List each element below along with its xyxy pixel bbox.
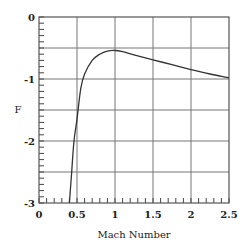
y-tick-labels: 0-1-2-3: [24, 12, 35, 209]
y-tick-label: 0: [28, 12, 35, 23]
x-tick-label: 1.5: [144, 209, 161, 220]
chart: 00.511.522.5 0-1-2-3 Mach Number F: [0, 0, 250, 249]
x-tick-label: 0.5: [68, 209, 85, 220]
data-line: [69, 50, 229, 203]
gridlines: [39, 17, 229, 203]
x-tick-label: 2.5: [220, 209, 237, 220]
x-tick-label: 1: [112, 209, 119, 220]
y-tick-label: -1: [24, 74, 35, 85]
y-tick-label: -3: [24, 198, 35, 209]
x-tick-label: 0: [36, 209, 43, 220]
y-tick-label: -2: [24, 136, 35, 147]
x-tick-labels: 00.511.522.5: [36, 209, 238, 220]
x-axis-label: Mach Number: [97, 229, 170, 240]
x-tick-label: 2: [188, 209, 195, 220]
y-axis-label: F: [15, 104, 22, 115]
